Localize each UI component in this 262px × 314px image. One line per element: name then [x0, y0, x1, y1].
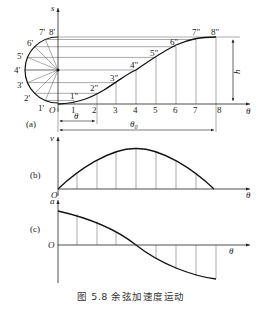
a-axis-label: a: [50, 196, 55, 206]
svg-text:7": 7": [192, 27, 201, 37]
svg-text:8": 8": [211, 27, 220, 37]
h-label: h: [232, 69, 242, 74]
circle-spokes: [25, 40, 58, 101]
s-axis-label: s: [51, 3, 55, 13]
svg-text:6": 6": [170, 37, 179, 47]
svg-text:2": 2": [90, 83, 99, 93]
svg-text:7': 7': [39, 27, 46, 37]
svg-text:4': 4': [14, 65, 21, 75]
svg-text:4: 4: [133, 105, 138, 115]
svg-text:8': 8': [49, 27, 56, 37]
svg-text:5': 5': [17, 51, 24, 61]
theta-axis-label-c: θ: [229, 246, 234, 256]
panel-b-velocity: v θ O (b): [30, 133, 251, 200]
panel-label-b: (b): [30, 170, 41, 180]
cosine-acceleration-figure: h θ θ0 s θ O (a) 1' 2' 3' 4' 5' 6' 7' 8'…: [0, 0, 262, 314]
svg-text:3: 3: [113, 105, 118, 115]
panel-c-acceleration: a θ O (c): [30, 196, 250, 283]
displacement-curve: [58, 37, 216, 104]
svg-text:5": 5": [150, 48, 159, 58]
svg-text:8: 8: [217, 105, 222, 115]
svg-text:6': 6': [27, 38, 34, 48]
origin-c: O: [48, 240, 55, 250]
theta0-label: θ0: [130, 119, 137, 130]
figure-caption: 图 5.8 余弦加速度运动: [77, 291, 185, 302]
svg-text:1: 1: [71, 105, 76, 115]
svg-text:1": 1": [70, 91, 79, 101]
velocity-ordinates: [77, 149, 196, 190]
svg-text:2: 2: [92, 105, 97, 115]
svg-text:3': 3': [17, 80, 24, 90]
svg-text:7: 7: [193, 105, 198, 115]
theta-axis-label-b: θ: [246, 190, 251, 200]
projection-lines: [25, 37, 216, 101]
svg-text:6: 6: [173, 105, 178, 115]
panel-label-a: (a): [26, 119, 36, 129]
svg-text:5: 5: [153, 105, 158, 115]
origin-a: O: [49, 105, 56, 115]
svg-text:4": 4": [130, 60, 139, 70]
panel-a-displacement: h θ θ0 s θ O (a) 1' 2' 3' 4' 5' 6' 7' 8'…: [14, 3, 251, 132]
axis-tick-labels: 1 2 3 4 5 6 7 8: [71, 105, 222, 115]
svg-text:2': 2': [24, 93, 31, 103]
panel-label-c: (c): [30, 224, 40, 234]
v-axis-label: v: [50, 133, 54, 143]
svg-text:3": 3": [110, 73, 119, 83]
theta-axis-label-a: θ: [246, 106, 251, 116]
svg-text:1': 1': [38, 103, 45, 113]
